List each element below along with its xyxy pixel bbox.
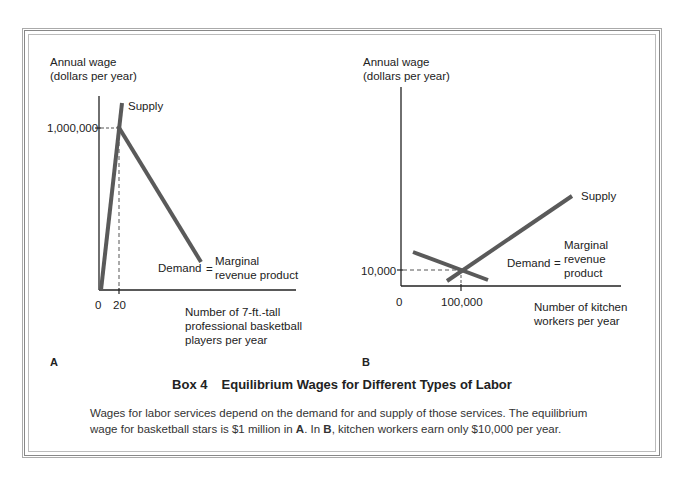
panel-a-ylabel-line1: Annual wage (50, 55, 117, 69)
panel-b-xlabel-line1: Number of kitchen (534, 300, 627, 314)
panel-a-xlabel-line3: players per year (185, 333, 267, 347)
panel-b-demand-curve (413, 252, 488, 280)
panel-a-xlabel-line2: professional basketball (185, 319, 302, 333)
caption-ref-b: B (323, 423, 331, 435)
panel-a-ylabel-line2: (dollars per year) (50, 69, 137, 83)
panel-a-supply-label: Supply (128, 99, 163, 113)
panel-b-mrp-line2: revenue (564, 252, 606, 266)
panel-b-letter: B (362, 356, 370, 368)
panel-b-demand-label: Demand (507, 256, 550, 270)
panel-a-demand-curve (118, 126, 201, 262)
panel-b-xtick-origin: 0 (396, 295, 402, 309)
figure-title-text: Equilibrium Wages for Different Types of… (222, 377, 512, 392)
panel-a-xlabel-line1: Number of 7-ft.-tall (185, 305, 280, 319)
panel-a-demand-label: Demand (158, 261, 201, 275)
panel-a-xtick-label: 20 (113, 298, 126, 312)
panel-b-ylabel-line2: (dollars per year) (363, 69, 450, 83)
panel-b-mrp-line3: product (564, 266, 602, 280)
caption-part2: . In (304, 423, 323, 435)
figure-caption: Wages for labor services depend on the d… (90, 405, 610, 437)
panel-a-equals: = (206, 262, 213, 276)
caption-ref-a: A (296, 423, 304, 435)
panel-a-mrp-line2: revenue product (215, 268, 298, 282)
panel-b-ylabel-line1: Annual wage (363, 55, 430, 69)
panel-b-mrp-line1: Marginal (564, 238, 608, 252)
panel-b-supply-label: Supply (581, 189, 616, 203)
caption-part3: , kitchen workers earn only $10,000 per … (332, 423, 562, 435)
figure-box-number: Box 4 (172, 377, 207, 392)
panel-b-xlabel-line2: workers per year (534, 314, 620, 328)
panel-a-letter: A (50, 356, 58, 368)
figure-title: Box 4Equilibrium Wages for Different Typ… (0, 377, 684, 392)
panel-a-xtick-origin: 0 (95, 298, 101, 312)
panel-b-ytick-label: 10,000 (361, 264, 396, 278)
panel-a-mrp-line1: Marginal (215, 254, 259, 268)
panel-a-ytick-label: 1,000,000 (47, 121, 98, 135)
panel-b-xtick-label: 100,000 (441, 295, 483, 309)
panel-b-equals: = (554, 256, 561, 270)
